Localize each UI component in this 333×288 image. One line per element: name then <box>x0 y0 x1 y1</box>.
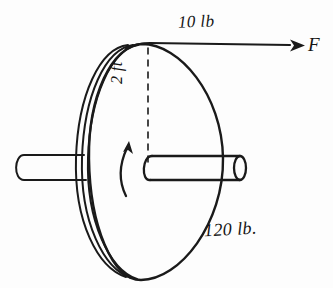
diagram-canvas <box>0 0 333 288</box>
force-magnitude-label: 10 lb <box>178 11 215 32</box>
rotation-arrow <box>121 141 133 196</box>
force-symbol-label: F <box>308 34 320 56</box>
flywheel-diagram: 10 lb F 2 ft 120 lb. <box>0 0 333 288</box>
disk-rim-thickness <box>76 45 138 279</box>
radius-label: 2 ft <box>108 62 126 85</box>
axle-right-segment <box>144 156 246 180</box>
weight-label: 120 lb. <box>203 218 257 242</box>
